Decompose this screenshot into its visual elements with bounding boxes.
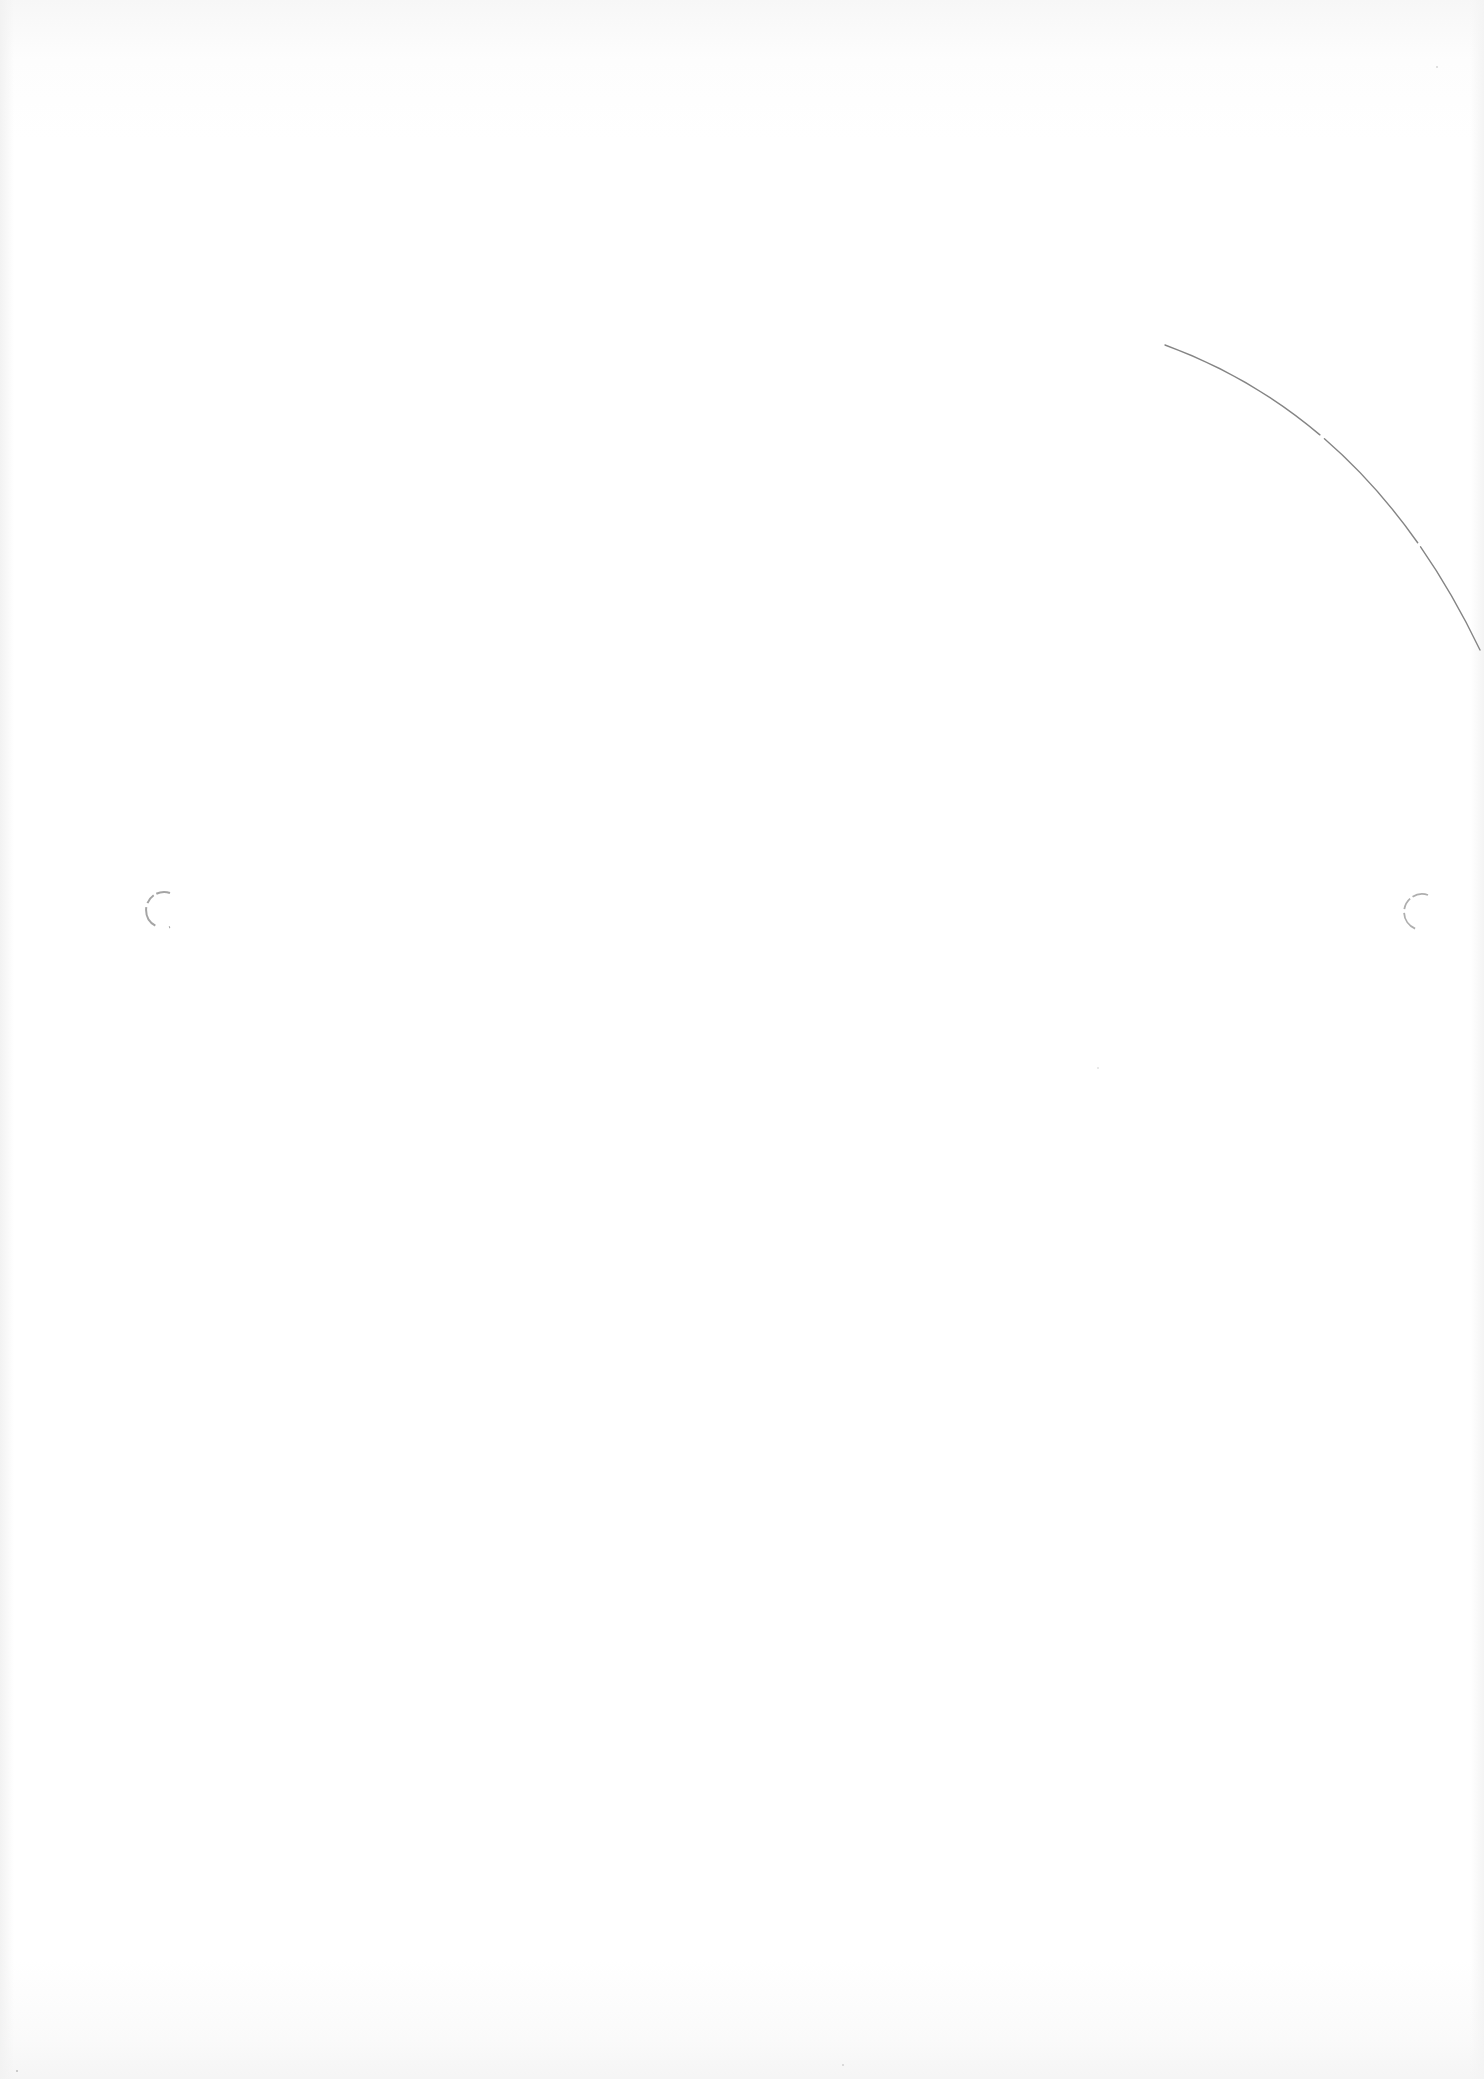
right-punch-hole-icon <box>1404 894 1428 930</box>
left-scan-shadow <box>0 0 14 2079</box>
dust-speck <box>1097 1067 1099 1069</box>
dust-speck <box>1436 66 1438 68</box>
left-punch-hole-icon <box>146 892 170 928</box>
dust-speck <box>842 2064 844 2066</box>
dust-speck <box>16 2070 18 2072</box>
document-page <box>0 0 1484 2079</box>
right-scan-shadow <box>1470 0 1484 2079</box>
page-marks <box>0 0 1484 2079</box>
arc-line <box>1165 345 1480 650</box>
